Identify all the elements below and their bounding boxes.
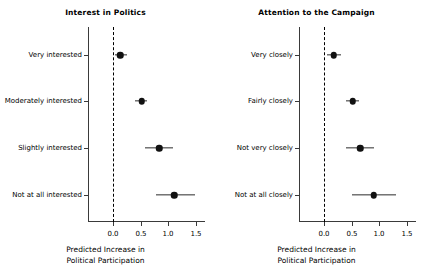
- y-tick-label-1: Moderately interested: [5, 97, 82, 105]
- y-tick: [295, 195, 299, 196]
- panel-title: Attention to the Campaign: [211, 8, 422, 17]
- x-tick: [141, 222, 142, 226]
- y-tick-label-1: Fairly closely: [248, 97, 293, 105]
- x-axis-title: Predicted Increase in Political Particip…: [211, 245, 422, 266]
- data-point: [331, 52, 338, 59]
- y-tick: [84, 148, 88, 149]
- x-tick: [196, 222, 197, 226]
- x-tick-label-2: 1.0: [162, 230, 173, 238]
- panel-title: Interest in Politics: [0, 8, 211, 17]
- x-axis-title-line-2: Political Participation: [211, 256, 422, 267]
- y-tick-label-0: Very interested: [29, 51, 82, 59]
- x-tick-label-1: 0.5: [346, 230, 357, 238]
- y-tick: [295, 148, 299, 149]
- y-tick-label-3: Not at all closely: [235, 191, 293, 199]
- y-tick: [295, 55, 299, 56]
- x-axis-spine: [88, 221, 205, 222]
- x-tick-label-0: 0.0: [318, 230, 329, 238]
- data-point: [171, 192, 178, 199]
- x-tick-label-1: 0.5: [135, 230, 146, 238]
- plot-area-left: Very interested Moderately interested Sl…: [88, 27, 205, 222]
- x-tick-label-3: 1.5: [190, 230, 201, 238]
- x-tick-label-3: 1.5: [401, 230, 412, 238]
- x-tick: [168, 222, 169, 226]
- x-axis-title-line-1: Predicted Increase in: [0, 245, 211, 256]
- x-axis-title-line-2: Political Participation: [0, 256, 211, 267]
- data-point: [349, 98, 356, 105]
- y-tick: [84, 195, 88, 196]
- y-axis-spine: [299, 27, 300, 222]
- y-tick-label-3: Not at all interested: [12, 191, 82, 199]
- x-tick: [113, 222, 114, 226]
- x-tick: [352, 222, 353, 226]
- y-tick-label-2: Not very closely: [237, 144, 293, 152]
- x-tick-label-2: 1.0: [373, 230, 384, 238]
- data-point: [138, 98, 145, 105]
- x-tick: [407, 222, 408, 226]
- data-point: [117, 52, 124, 59]
- x-axis-title: Predicted Increase in Political Particip…: [0, 245, 211, 266]
- x-axis-spine: [299, 221, 416, 222]
- y-tick-label-2: Slightly interested: [18, 144, 82, 152]
- zero-reference-line: [113, 27, 114, 222]
- panel-interest-in-politics: Interest in Politics Very interested Mod…: [0, 0, 211, 269]
- y-tick-label-0: Very closely: [251, 51, 293, 59]
- y-tick: [84, 55, 88, 56]
- data-point: [156, 145, 163, 152]
- plot-area-right: Very closely Fairly closely Not very clo…: [299, 27, 416, 222]
- figure: Interest in Politics Very interested Mod…: [0, 0, 422, 269]
- panel-attention-to-the-campaign: Attention to the Campaign Very closely F…: [211, 0, 422, 269]
- y-axis-spine: [88, 27, 89, 222]
- x-tick: [379, 222, 380, 226]
- y-tick: [84, 101, 88, 102]
- data-point: [357, 145, 364, 152]
- x-tick-label-0: 0.0: [107, 230, 118, 238]
- x-axis-title-line-1: Predicted Increase in: [211, 245, 422, 256]
- data-point: [371, 192, 378, 199]
- zero-reference-line: [324, 27, 325, 222]
- y-tick: [295, 101, 299, 102]
- x-tick: [324, 222, 325, 226]
